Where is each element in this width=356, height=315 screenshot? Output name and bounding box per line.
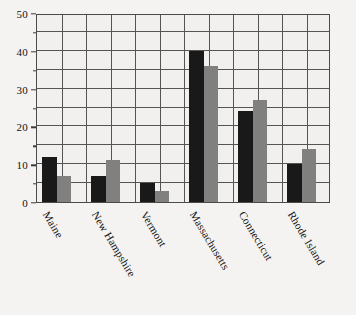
- y-tick-mark-minor: [33, 32, 36, 33]
- plot-area: [36, 14, 330, 203]
- gridline-horizontal: [37, 69, 329, 70]
- gridline-vertical: [233, 15, 234, 202]
- x-tick-label-rhode-island: Rhode Island: [285, 209, 327, 267]
- gridline-vertical: [160, 15, 161, 202]
- bar-new-hampshire-series-1: [91, 176, 105, 202]
- bar-connecticut-series-1: [238, 111, 252, 202]
- x-tick-label-new-hampshire: New Hampshire: [89, 209, 138, 279]
- bar-massachusetts-series-1: [189, 51, 203, 202]
- bar-rhode-island-series-1: [287, 164, 301, 202]
- y-tick-label: 50: [17, 8, 28, 20]
- y-tick-label: 30: [17, 84, 28, 96]
- gridline-horizontal: [37, 88, 329, 89]
- bar-vermont-series-1: [140, 183, 154, 202]
- x-tick-label-vermont: Vermont: [138, 209, 169, 249]
- bar-new-hampshire-series-2: [106, 160, 120, 202]
- y-tick-mark-minor: [33, 70, 36, 71]
- bar-connecticut-series-2: [253, 100, 267, 202]
- gridline-vertical: [62, 15, 63, 202]
- x-tick-label-massachusetts: Massachusetts: [187, 209, 231, 272]
- x-tick-label-maine: Maine: [40, 209, 65, 240]
- y-tick-label: 40: [17, 46, 28, 58]
- bar-vermont-series-2: [155, 191, 169, 202]
- y-tick-mark: [31, 89, 36, 90]
- gridline-vertical: [86, 15, 87, 202]
- bar-maine-series-2: [57, 176, 71, 202]
- gridline-vertical: [135, 15, 136, 202]
- bar-massachusetts-series-2: [204, 66, 218, 202]
- gridline-horizontal: [37, 163, 329, 164]
- x-tick-label-connecticut: Connecticut: [236, 209, 275, 263]
- gridline-horizontal: [37, 31, 329, 32]
- gridline-horizontal: [37, 182, 329, 183]
- y-tick-mark: [31, 164, 36, 165]
- bar-rhode-island-series-2: [302, 149, 316, 202]
- gridline-vertical: [282, 15, 283, 202]
- x-axis: MaineNew HampshireVermontMassachusettsCo…: [0, 203, 356, 315]
- y-tick-mark-minor: [33, 146, 36, 147]
- y-tick-label: 10: [17, 159, 28, 171]
- gridline-horizontal: [37, 125, 329, 126]
- bar-chart: 01020304050 MaineNew HampshireVermontMas…: [0, 0, 356, 315]
- y-tick-mark: [31, 13, 36, 14]
- gridline-vertical: [184, 15, 185, 202]
- gridline-horizontal: [37, 144, 329, 145]
- bar-maine-series-1: [42, 157, 56, 202]
- y-tick-mark: [31, 51, 36, 52]
- y-tick-mark-minor: [33, 183, 36, 184]
- y-tick-label: 20: [17, 121, 28, 133]
- gridline-horizontal: [37, 107, 329, 108]
- gridline-horizontal: [37, 50, 329, 51]
- y-tick-mark: [31, 127, 36, 128]
- y-tick-mark-minor: [33, 108, 36, 109]
